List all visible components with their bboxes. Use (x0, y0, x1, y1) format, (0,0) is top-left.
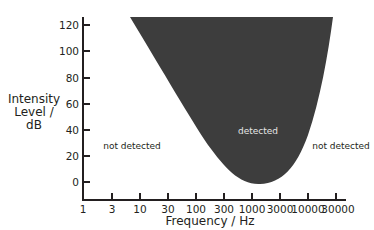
y-tick-60: 60 (66, 98, 79, 110)
x-tick-1: 1 (80, 203, 87, 215)
detected-label: detected (238, 126, 278, 136)
y-axis-title-line-3: dB (26, 118, 42, 132)
y-tick-labels: 120 100 80 60 40 20 0 (59, 19, 79, 188)
not-detected-right-label: not detected (312, 141, 370, 151)
y-axis-title-line-2: Level / (14, 105, 54, 119)
y-tick-80: 80 (66, 72, 79, 84)
y-axis (83, 17, 90, 201)
not-detected-left-label: not detected (103, 141, 161, 151)
y-tick-100: 100 (59, 45, 79, 57)
hearing-threshold-chart: 120 100 80 60 40 20 0 1 3 10 30 100 300 … (0, 0, 374, 230)
detected-region (130, 17, 333, 184)
y-tick-20: 20 (66, 150, 79, 162)
x-tick-10: 10 (133, 203, 146, 215)
x-tick-3000: 3000 (267, 203, 294, 215)
y-tick-120: 120 (59, 19, 79, 31)
y-tick-0: 0 (72, 176, 79, 188)
x-axis (82, 193, 346, 200)
y-axis-title: Intensity Level / dB (8, 92, 60, 132)
y-axis-title-line-1: Intensity (8, 92, 60, 106)
y-tick-40: 40 (66, 124, 79, 136)
x-axis-title: Frequency / Hz (166, 214, 255, 228)
x-tick-10000: 10000 (291, 203, 324, 215)
x-tick-30000: 30000 (321, 203, 354, 215)
x-tick-3: 3 (109, 203, 116, 215)
